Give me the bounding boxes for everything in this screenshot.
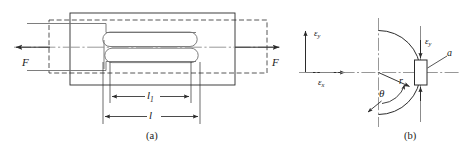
panel-a-slot-upper (103, 32, 197, 46)
strain-arrow-subscript: y (429, 40, 432, 47)
figure-container: F F l1 l (a) εy εx εy a r θ (b) (0, 0, 465, 151)
axis-label-strain-y: εy (314, 29, 320, 38)
axis-strain-x-symbol: ε (318, 77, 322, 87)
strain-arrow-label-y: εy (425, 37, 431, 46)
dimension-label-outer: l (149, 110, 152, 121)
strain-arrow-symbol: ε (425, 36, 429, 46)
element-label-a: a (447, 48, 452, 58)
panel-b-element-leader-line (428, 56, 448, 68)
panel-b-drawing (299, 18, 461, 127)
angle-label-theta: θ (379, 88, 384, 99)
panel-b-caption: (b) (404, 131, 416, 142)
panel-a-drawing (14, 13, 281, 124)
force-label-left: F (22, 57, 29, 68)
figure-drawing (0, 0, 465, 151)
axis-strain-x-subscript: x (322, 81, 325, 88)
panel-a-caption: (a) (146, 131, 158, 142)
panel-b-angle-reference-ray (368, 101, 382, 112)
panel-a-slot-lower (105, 48, 198, 62)
panel-a-shoulder-top (106, 24, 196, 33)
panel-b-element-rect (415, 60, 428, 85)
axis-strain-y-symbol: ε (314, 28, 318, 38)
panel-b-radius-vector (379, 73, 410, 87)
dimension-label-inner: l1 (147, 90, 154, 101)
axis-label-strain-x: εx (318, 78, 324, 87)
axis-strain-y-subscript: y (318, 32, 321, 39)
panel-b-angle-arc (382, 85, 405, 104)
force-label-right: F (272, 57, 279, 68)
dimension-inner-subscript: 1 (150, 95, 154, 104)
radius-label: r (399, 76, 403, 86)
